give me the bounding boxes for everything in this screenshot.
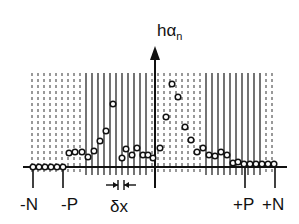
sample-point <box>206 152 212 158</box>
sample-point <box>200 145 206 151</box>
sample-point <box>218 149 224 155</box>
sample-point <box>110 101 116 107</box>
label-plus-n: +N <box>262 196 284 213</box>
sample-point <box>150 155 156 161</box>
sample-point <box>169 81 175 87</box>
label-minus-n: -N <box>20 196 38 213</box>
sample-point <box>235 159 241 165</box>
sample-point <box>194 149 200 155</box>
sample-point <box>253 161 259 167</box>
label-plus-p: +P <box>233 196 254 213</box>
sample-point <box>271 161 277 167</box>
sample-point <box>119 155 125 161</box>
sample-point <box>60 164 66 170</box>
sample-point <box>103 128 109 134</box>
sample-point <box>48 164 54 170</box>
sample-point <box>224 152 230 158</box>
sample-point <box>157 145 163 151</box>
y-axis-label-subscript: n <box>176 30 182 42</box>
sample-point <box>163 114 169 120</box>
sample-point <box>97 138 103 144</box>
arrow-left-icon <box>124 182 129 188</box>
sample-point <box>30 164 36 170</box>
arrow-right-icon <box>113 182 118 188</box>
sample-point <box>182 124 188 130</box>
sample-point <box>188 137 194 143</box>
sample-point <box>36 164 42 170</box>
sample-point <box>134 145 140 151</box>
sample-point <box>54 164 60 170</box>
diagram-canvas <box>0 0 299 224</box>
sample-point <box>42 164 48 170</box>
y-axis-arrow-icon <box>150 46 160 60</box>
sample-point <box>79 149 85 155</box>
sample-point <box>265 161 271 167</box>
sampled-sequence-diagram: hαn -N -P δx +P +N <box>0 0 299 224</box>
sample-point <box>91 148 97 154</box>
sample-point <box>212 153 218 159</box>
sample-point <box>241 161 247 167</box>
label-delta-x: δx <box>110 198 128 215</box>
y-axis-label-main: hα <box>157 21 176 40</box>
sample-point <box>247 161 253 167</box>
sample-point <box>123 146 129 152</box>
y-axis-label: hαn <box>157 22 182 45</box>
label-minus-p: -P <box>61 196 78 213</box>
sample-point <box>72 149 78 155</box>
sample-point <box>259 161 265 167</box>
sample-point <box>66 150 72 156</box>
sample-point <box>129 152 135 158</box>
sample-point <box>85 154 91 160</box>
sample-point <box>175 94 181 100</box>
